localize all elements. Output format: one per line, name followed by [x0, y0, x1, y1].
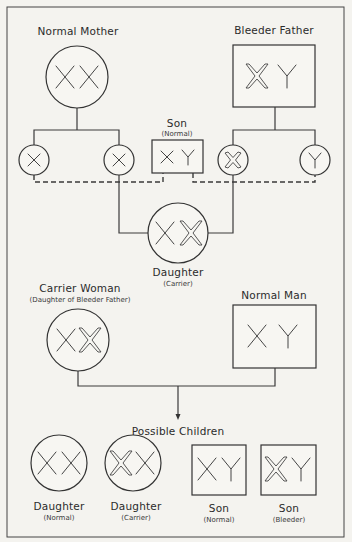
- label-daughter: Daughter: [153, 266, 204, 278]
- label-son: Son: [167, 117, 187, 129]
- line-mother-x-to-daughter: [119, 175, 148, 233]
- line-father-x-to-daughter: [208, 175, 233, 233]
- dashed-link-father-son: [193, 173, 315, 182]
- bleeder-father-symbol: [233, 45, 315, 107]
- label-child-4: Son: [279, 502, 299, 514]
- label-child-1-sub: (Normal): [44, 514, 75, 522]
- label-child-1: Daughter: [34, 500, 85, 512]
- normal-mother-symbol: [46, 46, 108, 108]
- arrow-down-icon: [176, 414, 181, 420]
- mother-gamete-branch: [34, 108, 119, 145]
- label-normal-man: Normal Man: [241, 289, 306, 301]
- label-child-2: Daughter: [111, 500, 162, 512]
- carrier-woman-symbol: [47, 309, 109, 371]
- label-child-4-sub: (Bleeder): [273, 516, 305, 524]
- label-bleeder-father: Bleeder Father: [234, 24, 314, 36]
- father-gamete-branch: [233, 107, 315, 145]
- child-son-normal-symbol: [192, 445, 246, 495]
- normal-man-symbol: [233, 305, 316, 368]
- child-daughter-normal-symbol: [31, 435, 87, 491]
- label-son-normal: (Normal): [162, 130, 193, 138]
- label-carrier-woman: Carrier Woman: [39, 282, 120, 294]
- label-child-3-sub: (Normal): [204, 516, 235, 524]
- label-normal-mother: Normal Mother: [38, 25, 119, 37]
- label-child-3: Son: [209, 502, 229, 514]
- gamete-mother-x-1: [19, 145, 49, 175]
- label-child-2-sub: (Carrier): [121, 514, 150, 522]
- gamete-father-y: [300, 145, 330, 175]
- son-normal-symbol: [152, 140, 203, 173]
- gamete-father-x-bleeder: [218, 145, 248, 175]
- label-daughter-carrier: (Carrier): [163, 280, 192, 288]
- gamete-mother-x-2: [104, 145, 134, 175]
- label-possible-children: Possible Children: [132, 425, 225, 437]
- label-carrier-woman-note: (Daughter of Bleeder Father): [30, 296, 131, 304]
- mating-line: [78, 368, 275, 386]
- child-daughter-carrier-symbol: [105, 435, 161, 491]
- pedigree-diagram: Normal Mother Bleeder Father Son (Normal…: [0, 0, 352, 542]
- daughter-carrier-symbol: [148, 203, 208, 263]
- dashed-link-mother-son: [34, 173, 163, 182]
- child-son-bleeder-symbol: [261, 445, 316, 495]
